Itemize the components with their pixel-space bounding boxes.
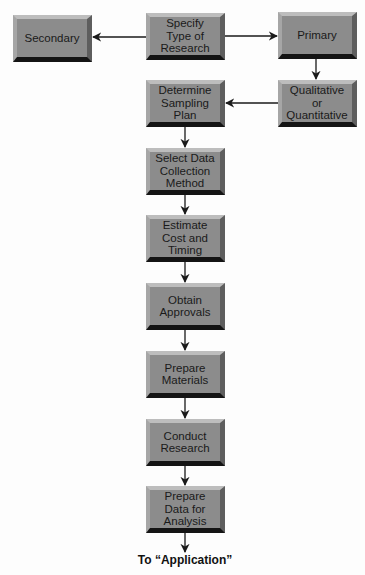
node-label: Qualitative or Quantitative <box>286 84 347 122</box>
node-conduct-research: Conduct Research <box>146 419 225 466</box>
node-determine-sampling-plan: Determine Sampling Plan <box>146 80 225 127</box>
node-obtain-approvals: Obtain Approvals <box>146 283 225 330</box>
node-secondary: Secondary <box>13 15 92 62</box>
node-primary: Primary <box>278 12 357 59</box>
node-specify-type-of-research: Specify Type of Research <box>146 13 225 60</box>
node-prepare-data-for-analysis: Prepare Data for Analysis <box>146 486 225 533</box>
node-label: Estimate Cost and Timing <box>162 219 208 257</box>
node-label: Secondary <box>25 32 80 45</box>
to-application-label: To “Application” <box>0 553 365 567</box>
node-label: Select Data Collection Method <box>155 152 214 190</box>
node-label: Obtain Approvals <box>159 294 210 319</box>
node-label: Determine Sampling Plan <box>158 84 211 122</box>
node-label: Prepare Materials <box>162 362 209 387</box>
node-estimate-cost-and-timing: Estimate Cost and Timing <box>146 215 225 262</box>
node-label: Specify Type of Research <box>160 17 209 55</box>
node-prepare-materials: Prepare Materials <box>146 351 225 398</box>
node-qualitative-or-quantitative: Qualitative or Quantitative <box>278 80 357 127</box>
node-label: Prepare Data for Analysis <box>164 490 207 528</box>
node-label: Conduct Research <box>160 430 209 455</box>
node-select-data-collection-method: Select Data Collection Method <box>146 148 225 195</box>
node-label: Primary <box>297 29 337 42</box>
flowchart-canvas: Specify Type of Research Secondary Prima… <box>0 0 365 575</box>
